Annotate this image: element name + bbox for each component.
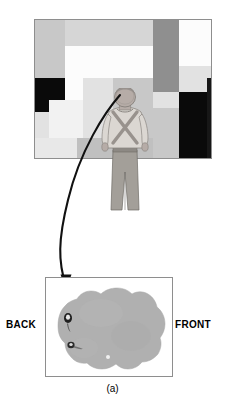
mosaic-tile [153, 108, 179, 159]
blot-texture-2 [111, 321, 151, 351]
receptive-field-panel [45, 277, 173, 377]
mosaic-tile [179, 92, 207, 159]
mosaic-tile [65, 46, 113, 78]
mosaic-tile [113, 46, 153, 78]
figure-container: BACK FRONT (a) [0, 0, 225, 416]
mosaic-tile [49, 100, 83, 138]
blot-svg [46, 278, 173, 377]
right-hand [142, 143, 148, 151]
blot-texture-1 [79, 299, 123, 327]
mosaic-tile [179, 46, 212, 66]
left-hand [102, 143, 108, 151]
mosaic-tile [65, 78, 83, 100]
mosaic-tile [65, 20, 112, 46]
blot-shape [58, 288, 165, 369]
mosaic-tile [207, 78, 212, 159]
mosaic-tile [35, 138, 77, 159]
label-back: BACK [6, 319, 36, 330]
mosaic-tile [35, 112, 49, 138]
mosaic-tile [153, 20, 179, 92]
light-spot-marker-3 [106, 355, 110, 359]
blot-texture-3 [70, 338, 98, 358]
blind-spot-marker-2-core [69, 343, 72, 346]
figure-caption: (a) [0, 383, 225, 394]
mosaic-tile [35, 20, 65, 78]
observer-svg [96, 88, 154, 212]
mosaic-tile [179, 20, 212, 46]
mosaic-tile [112, 20, 153, 46]
label-front: FRONT [175, 319, 211, 330]
mosaic-tile [153, 92, 179, 108]
blind-spot-marker-1-core [66, 315, 70, 320]
observer-figure [96, 88, 154, 212]
